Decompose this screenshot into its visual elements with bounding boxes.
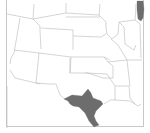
range-south-texas	[64, 89, 103, 127]
state-borders	[7, 3, 142, 128]
map-canvas	[0, 0, 150, 133]
lake-michigan	[137, 1, 144, 21]
